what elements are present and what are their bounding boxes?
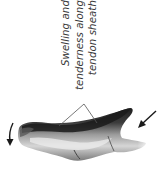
finger-illustration-figure: Swelling and tenderness along tendon she…	[0, 0, 161, 181]
annotation-line-3: tendon sheath	[86, 0, 100, 100]
annotation-text: Swelling and tenderness along tendon she…	[59, 0, 107, 100]
annotation-label: Swelling and tenderness along tendon she…	[59, 0, 107, 100]
annotation-line-1: Swelling and	[59, 0, 73, 100]
fingertip-direction-arrow	[7, 123, 14, 146]
annotation-line-2: tenderness along	[73, 0, 87, 100]
finger-base-fade	[100, 100, 150, 160]
